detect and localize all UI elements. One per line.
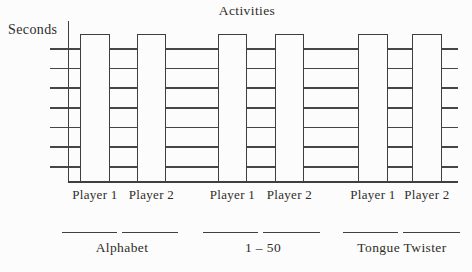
y-gridline	[50, 87, 458, 89]
group-label: 1 – 50	[193, 240, 333, 256]
y-gridline	[50, 48, 458, 50]
bar-label: Player 2	[391, 187, 463, 203]
y-axis-line	[68, 21, 70, 183]
answer-blank-line	[122, 232, 178, 234]
answer-blank-line	[263, 232, 320, 234]
answer-blank-line	[343, 232, 398, 234]
bar-label: Player 2	[116, 187, 188, 203]
y-gridline	[50, 68, 458, 70]
bar	[358, 34, 388, 182]
bar-label: Player 2	[254, 187, 326, 203]
answer-blank-line	[403, 232, 460, 234]
bar-chart-worksheet: Activities Seconds Player 1Player 2Playe…	[0, 0, 472, 272]
bar	[412, 34, 442, 182]
bar	[275, 34, 304, 182]
answer-blank-line	[62, 232, 117, 234]
bar	[218, 34, 247, 182]
bar	[80, 34, 110, 182]
y-gridline	[50, 107, 458, 109]
group-label: Alphabet	[52, 240, 192, 256]
y-gridline	[50, 127, 458, 129]
y-gridline	[50, 166, 458, 168]
chart-title: Activities	[187, 3, 307, 19]
answer-blank-line	[203, 232, 258, 234]
y-axis-label: Seconds	[8, 22, 57, 38]
x-axis-line	[68, 181, 458, 183]
y-gridline	[50, 146, 458, 148]
group-label: Tongue Twister	[332, 240, 472, 256]
bar	[137, 34, 166, 182]
